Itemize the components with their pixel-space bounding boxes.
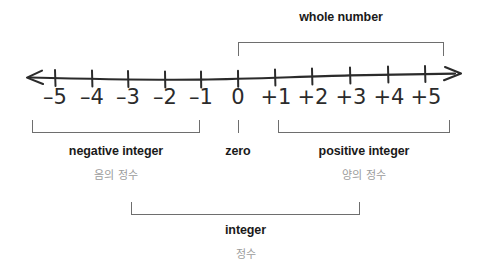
tick-label-+2: +2 bbox=[298, 85, 329, 109]
tick-label-+4: +4 bbox=[374, 85, 405, 109]
tick-label-0: 0 bbox=[231, 85, 244, 109]
tick-label--2: –2 bbox=[153, 85, 177, 109]
tick-label--5: –5 bbox=[43, 85, 67, 109]
integer-bracket bbox=[131, 202, 360, 215]
tick-label-+5: +5 bbox=[411, 85, 442, 109]
negative-integer-label-ko: 음의 정수 bbox=[32, 166, 200, 182]
tick-label--3: –3 bbox=[116, 85, 140, 109]
tick-label--4: –4 bbox=[80, 85, 104, 109]
integer-label: integer bbox=[131, 223, 360, 237]
tick-label--1: –1 bbox=[189, 85, 213, 109]
tick-label-+1: +1 bbox=[261, 85, 292, 109]
negative-integer-label: negative integer bbox=[32, 144, 200, 158]
positive-integer-label-ko: 양의 정수 bbox=[278, 166, 450, 182]
zero-label: zero bbox=[208, 144, 268, 158]
zero-tick-mark bbox=[238, 120, 239, 133]
tick-label-+3: +3 bbox=[336, 85, 367, 109]
negative-integer-bracket bbox=[32, 120, 200, 133]
whole-number-label: whole number bbox=[238, 10, 444, 24]
positive-integer-label: positive integer bbox=[278, 144, 450, 158]
integer-label-ko: 정수 bbox=[131, 245, 360, 261]
positive-integer-bracket bbox=[278, 120, 450, 133]
number-line-diagram: whole number –5 –4 –3 –2 –1 0 +1 +2 +3 + bbox=[0, 0, 479, 273]
